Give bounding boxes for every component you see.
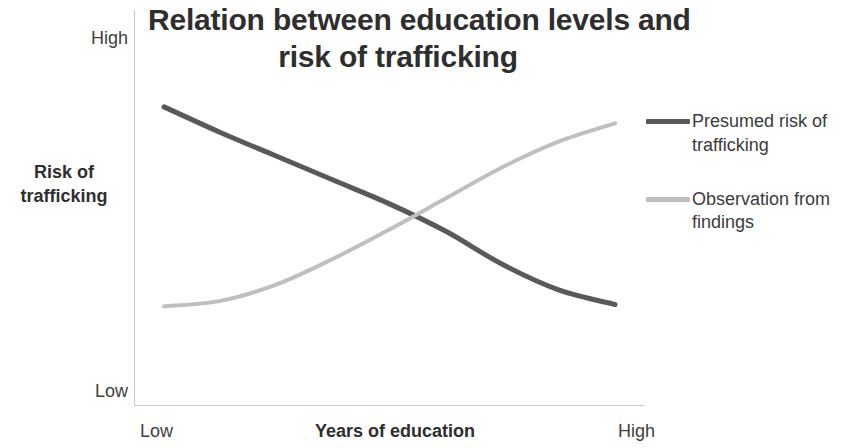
legend-color-swatch-icon <box>646 197 690 202</box>
y-axis-title-line-1: Risk of <box>0 160 128 184</box>
chart-plot-svg <box>134 10 645 406</box>
x-axis-title: Years of education <box>245 421 545 442</box>
y-axis-title: Risk of trafficking <box>0 160 128 209</box>
x-axis-tick-high: High <box>618 421 655 442</box>
legend-item-observation: Observation from findings <box>646 188 859 236</box>
y-axis-title-line-2: trafficking <box>0 184 128 208</box>
y-axis-tick-low: Low <box>8 381 128 402</box>
series-line-presumed-risk <box>164 107 615 305</box>
legend-color-swatch-icon <box>646 119 690 124</box>
x-axis-tick-low: Low <box>140 421 173 442</box>
legend-item-label: Observation from findings <box>692 188 858 236</box>
legend-item-label: Presumed risk of trafficking <box>692 110 858 158</box>
legend-item-presumed-risk: Presumed risk of trafficking <box>646 110 859 158</box>
y-axis-tick-high: High <box>8 28 128 49</box>
y-axis-labels: High Low Risk of trafficking <box>0 0 128 448</box>
series-line-observation <box>164 123 615 306</box>
chart-legend: Presumed risk of trafficking Observation… <box>646 110 859 265</box>
